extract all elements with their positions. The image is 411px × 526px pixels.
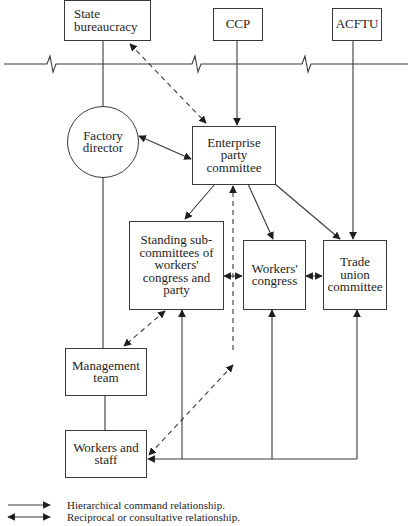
dashed-subcommittees-management — [124, 311, 165, 346]
legend-reciprocal-label: Reciprocal or consultative relationship. — [67, 511, 240, 523]
node-state-bureaucracy-label: State bureaucracy — [74, 8, 138, 33]
node-factory-director: Factory director — [67, 106, 139, 178]
arrow-epc-to-trade-union — [275, 184, 340, 239]
dashed-workers-epc-lower — [149, 365, 233, 455]
node-acftu: ACFTU — [332, 8, 382, 41]
arrow-epc-to-workers-congress — [248, 184, 273, 239]
node-management-team-label: Management team — [72, 360, 140, 385]
node-enterprise-party-committee-label: Enterprise party committee — [207, 137, 262, 175]
boundary-line — [4, 56, 408, 72]
node-workers-congress: Workers' congress — [243, 240, 306, 310]
node-workers-congress-label: Workers' congress — [251, 263, 297, 288]
node-management-team: Management team — [65, 348, 147, 396]
node-trade-union-committee: Trade union committee — [323, 240, 387, 310]
node-workers-and-staff: Workers and staff — [65, 430, 147, 478]
node-standing-subcommittees-label: Standing sub- committees of workers' con… — [139, 234, 213, 297]
node-ccp-label: CCP — [226, 18, 251, 31]
node-standing-subcommittees: Standing sub- committees of workers' con… — [129, 221, 224, 310]
node-state-bureaucracy: State bureaucracy — [64, 0, 151, 41]
node-enterprise-party-committee: Enterprise party committee — [192, 126, 276, 185]
node-acftu-label: ACFTU — [336, 18, 379, 31]
legend-hierarchical-label: Hierarchical command relationship. — [67, 499, 225, 511]
node-workers-and-staff-label: Workers and staff — [73, 442, 139, 467]
node-factory-director-label: Factory director — [83, 130, 123, 155]
node-trade-union-committee-label: Trade union committee — [328, 256, 383, 294]
node-ccp: CCP — [213, 8, 263, 41]
arrow-director-epc — [139, 136, 191, 159]
arrow-epc-to-subcommittees — [185, 184, 215, 219]
